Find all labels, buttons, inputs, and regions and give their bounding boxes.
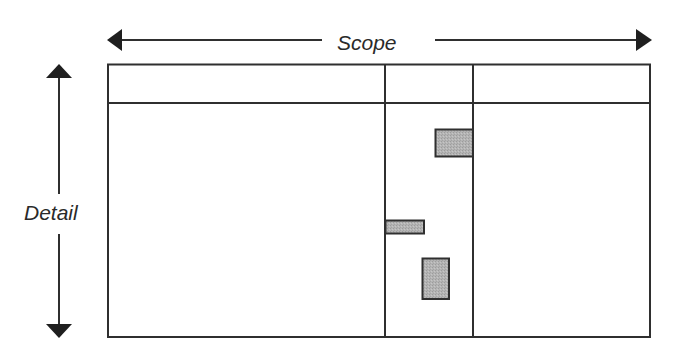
detail-label: Detail (24, 202, 78, 223)
middle-bar (386, 221, 425, 234)
scope-label: Scope (337, 32, 397, 53)
upper-block (436, 130, 474, 157)
arrowhead-right-icon (636, 29, 652, 51)
grid-frame (108, 65, 650, 338)
arrowhead-up-icon (46, 64, 72, 78)
lower-block (423, 259, 450, 300)
outer-frame (108, 65, 650, 338)
blocks (386, 130, 474, 300)
arrowhead-down-icon (46, 324, 72, 338)
arrowhead-left-icon (107, 29, 122, 51)
